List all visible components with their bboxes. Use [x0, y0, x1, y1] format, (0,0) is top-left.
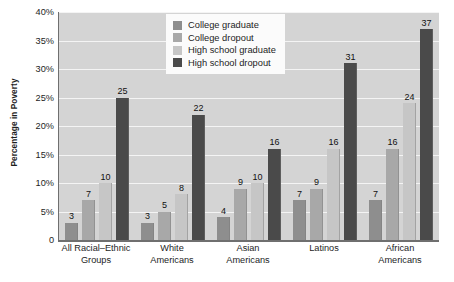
bar-value-label: 9	[314, 177, 319, 187]
bar-value-label: 10	[100, 172, 110, 182]
y-axis-tick-30: 30%	[18, 64, 54, 74]
x-axis-tick-labels: All Racial–EthnicGroupsWhiteAmericansAsi…	[58, 243, 438, 266]
bar-value-label: 24	[404, 92, 414, 102]
bar-value-label: 8	[179, 183, 184, 193]
y-axis-tick-35: 35%	[18, 36, 54, 46]
bar-group: 7162437	[363, 12, 439, 240]
bar-column: 37	[420, 12, 433, 240]
bar-value-label: 9	[238, 177, 243, 187]
x-axis-label-0: All Racial–EthnicGroups	[58, 243, 134, 266]
bar[interactable]	[327, 149, 340, 240]
bar-column: 10	[99, 12, 112, 240]
poverty-by-education-bar-chart: Percentage in Poverty 40%35%30%25%20%15%…	[0, 0, 454, 282]
y-axis-tick-0: 0	[18, 235, 54, 245]
y-axis-tick-15: 15%	[18, 150, 54, 160]
legend-swatch-icon	[173, 46, 182, 55]
bar-column: 31	[344, 12, 357, 240]
bar[interactable]	[403, 103, 416, 240]
y-axis-tick-20: 20%	[18, 121, 54, 131]
bar-value-label: 7	[297, 189, 302, 199]
legend-swatch-icon	[173, 58, 182, 67]
bar-column: 3	[65, 12, 78, 240]
y-axis-tick-10: 10%	[18, 178, 54, 188]
bar-value-label: 22	[193, 103, 203, 113]
x-axis-label-4: AfricanAmericans	[362, 243, 438, 266]
bar-value-label: 16	[269, 137, 279, 147]
bar-value-label: 5	[162, 200, 167, 210]
bar-column: 9	[310, 12, 323, 240]
bar[interactable]	[116, 98, 129, 241]
x-axis-label-2: AsianAmericans	[210, 243, 286, 266]
bar[interactable]	[192, 115, 205, 240]
x-axis-line	[58, 240, 439, 242]
bar[interactable]	[293, 200, 306, 240]
bar[interactable]	[420, 29, 433, 240]
legend-item-0[interactable]: College graduate	[173, 19, 276, 32]
x-axis-label-1: WhiteAmericans	[134, 243, 210, 266]
y-axis-tick-25: 25%	[18, 93, 54, 103]
bar-value-label: 31	[345, 52, 355, 62]
y-axis-tick-labels: 40%35%30%25%20%15%10%5%0	[18, 12, 54, 240]
legend-label: College graduate	[188, 20, 259, 30]
bar[interactable]	[175, 194, 188, 240]
chart-legend: College graduateCollege dropoutHigh scho…	[166, 14, 285, 74]
bar-set: 7162437	[363, 12, 439, 240]
bar-value-label: 4	[221, 206, 226, 216]
x-axis-label-3: Latinos	[286, 243, 362, 266]
bar[interactable]	[99, 183, 112, 240]
legend-label: College dropout	[188, 33, 254, 43]
bar-value-label: 16	[328, 137, 338, 147]
bar-value-label: 7	[373, 189, 378, 199]
bar-group: 371025	[59, 12, 135, 240]
bar[interactable]	[268, 149, 281, 240]
legend-item-1[interactable]: College dropout	[173, 32, 276, 45]
bar[interactable]	[310, 189, 323, 240]
bar[interactable]	[369, 200, 382, 240]
bar-set: 371025	[59, 12, 135, 240]
bar-column: 24	[403, 12, 416, 240]
bar[interactable]	[82, 200, 95, 240]
bar[interactable]	[386, 149, 399, 240]
bar-value-label: 37	[421, 18, 431, 28]
bar-value-label: 25	[117, 86, 127, 96]
bar-column: 3	[141, 12, 154, 240]
bar-set: 791631	[287, 12, 363, 240]
y-axis-tick-5: 5%	[18, 207, 54, 217]
bar[interactable]	[158, 212, 171, 241]
bar[interactable]	[234, 189, 247, 240]
bar-column: 16	[386, 12, 399, 240]
legend-label: High school graduate	[188, 45, 276, 55]
bar-value-label: 16	[387, 137, 397, 147]
legend-item-2[interactable]: High school graduate	[173, 44, 276, 57]
legend-swatch-icon	[173, 21, 182, 30]
bar-column: 7	[293, 12, 306, 240]
bar-column: 25	[116, 12, 129, 240]
legend-label: High school dropout	[188, 58, 271, 68]
y-axis-tick-40: 40%	[18, 7, 54, 17]
bar-group: 791631	[287, 12, 363, 240]
bar-value-label: 3	[69, 211, 74, 221]
bar-value-label: 3	[145, 211, 150, 221]
bar-column: 16	[327, 12, 340, 240]
legend-item-3[interactable]: High school dropout	[173, 57, 276, 70]
bar[interactable]	[217, 217, 230, 240]
bar[interactable]	[344, 63, 357, 240]
bar-value-label: 7	[86, 189, 91, 199]
bar-value-label: 10	[252, 172, 262, 182]
bar[interactable]	[251, 183, 264, 240]
bar[interactable]	[141, 223, 154, 240]
bar-column: 7	[82, 12, 95, 240]
legend-swatch-icon	[173, 33, 182, 42]
bar-column: 7	[369, 12, 382, 240]
bar[interactable]	[65, 223, 78, 240]
